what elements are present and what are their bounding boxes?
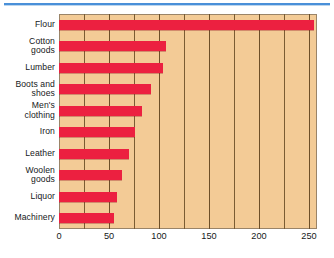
category-label-line: Liquor	[0, 192, 55, 202]
category-label: Liquor	[0, 192, 55, 202]
bar	[59, 170, 122, 180]
value-axis-tick-label: 50	[104, 231, 114, 241]
bar-slot	[59, 165, 317, 187]
bar	[59, 106, 142, 116]
category-label: Boots andshoes	[0, 80, 55, 99]
value-axis: 050100150200250	[59, 229, 317, 249]
category-label: Flour	[0, 20, 55, 30]
category-axis-labels: FlourCottongoodsLumberBoots andshoesMen'…	[0, 14, 57, 229]
bar-slot	[59, 79, 317, 101]
bar-slot	[59, 57, 317, 79]
bar	[59, 63, 163, 73]
value-axis-tick-label: 250	[301, 231, 316, 241]
category-label: Men'sclothing	[0, 101, 55, 120]
category-label: Cottongoods	[0, 37, 55, 56]
bar	[59, 213, 114, 223]
value-axis-tick-label: 0	[56, 231, 61, 241]
category-label-line: Flour	[0, 20, 55, 30]
top-decorative-rule-shadow	[4, 5, 330, 6]
category-label-line: Iron	[0, 127, 55, 137]
category-label-line: goods	[0, 46, 55, 56]
bar-slot	[59, 208, 317, 230]
bar	[59, 149, 129, 159]
bar	[59, 41, 166, 51]
bar-series	[59, 14, 317, 229]
category-label-line: shoes	[0, 89, 55, 99]
bar-slot	[59, 14, 317, 36]
category-label-line: Machinery	[0, 213, 55, 223]
bar-slot	[59, 36, 317, 58]
bar	[59, 127, 135, 137]
category-label: Machinery	[0, 213, 55, 223]
category-label-line: clothing	[0, 111, 55, 121]
bar-slot	[59, 143, 317, 165]
category-label: Lumber	[0, 63, 55, 73]
category-label: Leather	[0, 149, 55, 159]
category-label: Iron	[0, 127, 55, 137]
category-label-line: Leather	[0, 149, 55, 159]
category-label-line: Lumber	[0, 63, 55, 73]
value-axis-tick-label: 100	[151, 231, 166, 241]
bar-slot	[59, 186, 317, 208]
category-label: Woolengoods	[0, 166, 55, 185]
bar-chart-figure: FlourCottongoodsLumberBoots andshoesMen'…	[0, 0, 334, 258]
category-label-line: goods	[0, 175, 55, 185]
bar-slot	[59, 122, 317, 144]
bar	[59, 20, 314, 30]
plot-wrapper	[59, 14, 317, 229]
bar-slot	[59, 100, 317, 122]
bar	[59, 192, 117, 202]
value-axis-tick-label: 200	[251, 231, 266, 241]
bar	[59, 84, 151, 94]
value-axis-tick-label: 150	[201, 231, 216, 241]
